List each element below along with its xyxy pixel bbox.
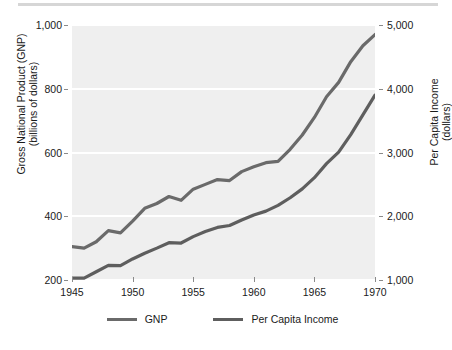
x-axis-tickmark xyxy=(254,277,255,282)
y-axis-left-tick-label: 600 xyxy=(44,148,62,159)
legend-item[interactable]: Per Capita Income xyxy=(213,314,338,325)
x-axis-tick-label: 1970 xyxy=(363,287,386,298)
y-axis-left-tickmark xyxy=(64,280,68,281)
y-axis-right-tickmark xyxy=(379,280,383,281)
y-axis-left-title: Gross National Product (GNP) (billions o… xyxy=(15,4,39,204)
legend-color-swatch xyxy=(213,318,243,321)
y-axis-left-tick-label: 200 xyxy=(44,275,62,286)
series-line-per-capita-income xyxy=(72,95,375,278)
y-axis-right-title-line1: Per Capita Income xyxy=(428,79,440,166)
y-axis-right-tick-label: 5,000 xyxy=(387,20,413,31)
y-axis-left-tick-label: 1,000 xyxy=(36,20,62,31)
y-axis-right-title-line2: (dollars) xyxy=(440,103,452,141)
series-line-gnp xyxy=(72,35,375,249)
x-axis-tick-label: 1955 xyxy=(182,287,205,298)
y-axis-right-title: Per Capita Income (dollars) xyxy=(428,47,452,197)
y-axis-left-title-line1: Gross National Product (GNP) xyxy=(15,33,27,174)
x-axis-tickmark xyxy=(314,277,315,282)
x-axis-tick-label: 1960 xyxy=(242,287,265,298)
y-axis-left-tick-label: 400 xyxy=(44,211,62,222)
y-axis-right-tick-label: 2,000 xyxy=(387,211,413,222)
plot-area xyxy=(72,25,375,280)
x-axis-tick-label: 1965 xyxy=(303,287,326,298)
x-axis-tick-label: 1945 xyxy=(60,287,83,298)
y-axis-right-tickmark xyxy=(379,153,383,154)
y-axis-right-tickmark xyxy=(379,216,383,217)
y-axis-left-tickmark xyxy=(64,25,68,26)
x-axis-tick-label: 1950 xyxy=(121,287,144,298)
x-axis-tickmark xyxy=(72,277,73,282)
legend-item[interactable]: GNP xyxy=(107,314,168,325)
series-lines xyxy=(72,25,375,280)
y-axis-left-tickmark xyxy=(64,153,68,154)
y-axis-right-tick-label: 3,000 xyxy=(387,148,413,159)
y-axis-right-tick-label: 1,000 xyxy=(387,275,413,286)
y-axis-right-tick-label: 4,000 xyxy=(387,84,413,95)
y-axis-left-title-line2: (billions of dollars) xyxy=(27,62,39,147)
legend-label: Per Capita Income xyxy=(251,314,338,325)
x-axis-tickmark xyxy=(133,277,134,282)
y-axis-left-tickmark xyxy=(64,89,68,90)
legend-label: GNP xyxy=(145,314,168,325)
legend-color-swatch xyxy=(107,318,137,321)
y-axis-right-tickmark xyxy=(379,89,383,90)
y-axis-left-tick-label: 800 xyxy=(44,84,62,95)
x-axis-ticks: 194519501955196019651970 xyxy=(72,283,375,303)
y-axis-left-tickmark xyxy=(64,216,68,217)
x-axis-tickmark xyxy=(375,277,376,282)
chart-legend: GNPPer Capita Income xyxy=(0,314,445,325)
x-axis-tickmark xyxy=(193,277,194,282)
y-axis-right-tickmark xyxy=(379,25,383,26)
